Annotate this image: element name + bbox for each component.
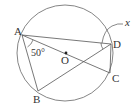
segment-ad (22, 35, 111, 44)
label-c: C (112, 72, 119, 84)
geometry-diagram: A B C D O 50° x (0, 0, 138, 107)
angle-arc-d (101, 43, 103, 49)
unknown-angle-x: x (124, 16, 130, 28)
angle-arc-a (28, 40, 34, 47)
angle-label-50: 50° (31, 47, 45, 58)
segment-ab (22, 35, 38, 91)
label-d: D (113, 38, 121, 50)
label-a: A (14, 25, 22, 37)
segment-bd (38, 44, 111, 91)
label-o: O (61, 54, 69, 66)
segment-dc (110, 44, 111, 73)
label-b: B (33, 93, 40, 105)
